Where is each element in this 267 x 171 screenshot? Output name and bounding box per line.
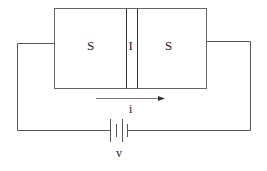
insulator-label: I [129, 38, 133, 53]
circuit-diagram: S I S v i [0, 0, 267, 171]
superconductor-left-label: S [87, 38, 94, 53]
battery-icon [111, 119, 128, 142]
right-wire [127, 42, 251, 131]
voltage-label: v [116, 146, 122, 160]
current-label: i [129, 102, 133, 116]
current-arrow-icon [96, 96, 165, 101]
left-wire [18, 44, 111, 131]
superconductor-right-label: S [165, 38, 172, 53]
